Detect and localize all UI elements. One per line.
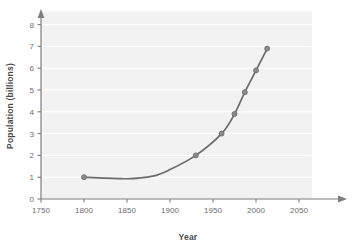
data-point-marker bbox=[232, 111, 237, 116]
population-growth-chart: 012345678 1750180018501900195020002050 Y… bbox=[0, 0, 356, 250]
x-axis-ticks: 1750180018501900195020002050 bbox=[32, 199, 308, 215]
data-point-marker bbox=[193, 153, 198, 158]
y-tick-label: 5 bbox=[30, 86, 35, 95]
x-axis-title: Year bbox=[179, 232, 198, 242]
x-tick-label: 1750 bbox=[32, 206, 50, 215]
data-point-marker bbox=[219, 131, 224, 136]
data-point-marker bbox=[82, 175, 87, 180]
x-tick-label: 1950 bbox=[204, 206, 222, 215]
y-tick-label: 8 bbox=[30, 21, 35, 30]
data-point-marker bbox=[254, 68, 259, 73]
plot-background bbox=[41, 12, 312, 199]
x-tick-label: 1800 bbox=[75, 206, 93, 215]
y-tick-label: 1 bbox=[30, 173, 35, 182]
y-axis-ticks: 012345678 bbox=[30, 21, 41, 204]
x-tick-label: 1900 bbox=[161, 206, 179, 215]
x-tick-label: 2050 bbox=[290, 206, 308, 215]
y-tick-label: 3 bbox=[30, 130, 35, 139]
y-tick-label: 0 bbox=[30, 195, 35, 204]
y-tick-label: 4 bbox=[30, 108, 35, 117]
data-point-marker bbox=[242, 90, 247, 95]
chart-canvas: 012345678 1750180018501900195020002050 Y… bbox=[0, 0, 356, 250]
y-tick-label: 6 bbox=[30, 64, 35, 73]
data-point-marker bbox=[265, 46, 270, 51]
x-axis-arrow-icon bbox=[338, 196, 347, 203]
y-tick-label: 7 bbox=[30, 42, 35, 51]
x-tick-label: 2000 bbox=[247, 206, 265, 215]
x-tick-label: 1850 bbox=[118, 206, 136, 215]
y-tick-label: 2 bbox=[30, 151, 35, 160]
y-axis-title: Population (billions) bbox=[5, 63, 15, 149]
